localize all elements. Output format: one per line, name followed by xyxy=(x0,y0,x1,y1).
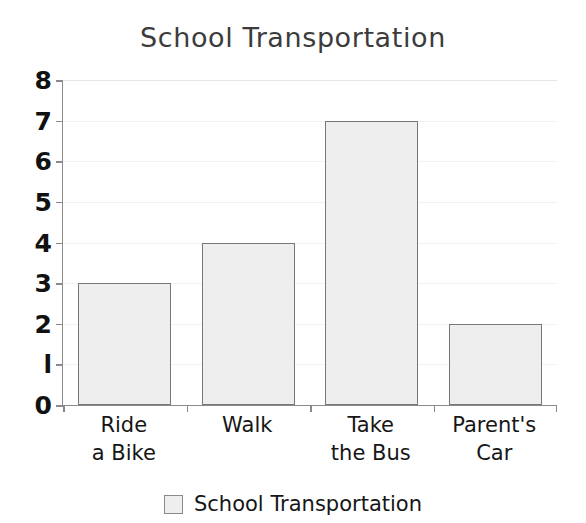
y-axis-tick-label: 8 xyxy=(6,68,52,93)
y-axis-tick-label: 2 xyxy=(6,311,52,336)
bar xyxy=(325,121,418,405)
x-axis-tick-label: Ridea Bike xyxy=(62,412,186,467)
y-axis-tick-label: 7 xyxy=(6,108,52,133)
gridline xyxy=(63,243,557,244)
y-axis-tick-label: 5 xyxy=(6,189,52,214)
y-axis-tick-label: 0 xyxy=(6,393,52,418)
y-axis-tick-label: l xyxy=(6,352,52,377)
x-axis-tick-label-line: Car xyxy=(433,440,557,468)
x-axis-tick xyxy=(310,405,312,412)
x-axis-tick xyxy=(434,405,436,412)
y-axis-tick xyxy=(56,324,63,326)
y-axis-tick xyxy=(56,80,63,82)
chart-title: School Transportation xyxy=(0,22,586,53)
y-axis-tick xyxy=(56,202,63,204)
bar xyxy=(78,283,171,405)
x-axis-tick-label-line: Walk xyxy=(186,412,310,440)
y-axis-tick-label: 4 xyxy=(6,230,52,255)
x-axis-tick-label: Walk xyxy=(186,412,310,440)
bar xyxy=(449,324,542,405)
x-axis-tick-label-line: Take xyxy=(309,412,433,440)
y-axis-tick xyxy=(56,283,63,285)
x-axis-tick-label-line: the Bus xyxy=(309,440,433,468)
x-axis-tick xyxy=(187,405,189,412)
y-axis-tick xyxy=(56,243,63,245)
y-axis-tick xyxy=(56,161,63,163)
gridline xyxy=(63,121,557,122)
x-axis-tick-label: Takethe Bus xyxy=(309,412,433,467)
x-axis-tick-label: Parent'sCar xyxy=(433,412,557,467)
legend-color-swatch xyxy=(164,495,183,514)
legend-label: School Transportation xyxy=(194,492,422,516)
y-axis-tick xyxy=(56,121,63,123)
y-axis-tick-label: 3 xyxy=(6,271,52,296)
x-axis-tick-label-line: Ride xyxy=(62,412,186,440)
chart-legend: School Transportation xyxy=(0,492,586,516)
bar xyxy=(202,243,295,406)
bar-chart: School Transportation 0l2345678 Ridea Bi… xyxy=(0,0,586,523)
x-axis-tick-label-line: Parent's xyxy=(433,412,557,440)
plot-area xyxy=(62,80,557,406)
x-axis-tick-label-line: a Bike xyxy=(62,440,186,468)
x-axis-tick xyxy=(556,405,558,412)
x-axis-tick-labels: Ridea BikeWalkTakethe BusParent'sCar xyxy=(62,412,557,478)
y-axis-tick-labels: 0l2345678 xyxy=(0,80,52,406)
gridline xyxy=(63,161,557,162)
gridline xyxy=(63,80,557,81)
y-axis-tick xyxy=(56,405,63,407)
x-axis-tick xyxy=(63,405,65,412)
y-axis-tick-label: 6 xyxy=(6,149,52,174)
y-axis-tick xyxy=(56,364,63,366)
gridline xyxy=(63,202,557,203)
